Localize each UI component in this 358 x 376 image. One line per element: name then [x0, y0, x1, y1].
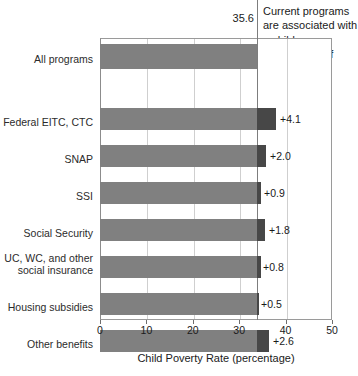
bar-value-other-benefits: +2.6	[273, 336, 294, 347]
bar-increment-housing-subsidies	[257, 293, 259, 315]
bar-base-housing-subsidies	[100, 293, 257, 315]
bar-row-other-benefits: +2.6	[0, 330, 358, 352]
bar-chart: 35.6 Current programs are associated wit…	[0, 0, 358, 376]
bar-base-ssi	[100, 182, 257, 204]
tick-label-40: 40	[280, 324, 292, 336]
bar-increment-uc-wc-social-insurance	[257, 256, 261, 278]
baseline-value-label: 35.6	[233, 12, 254, 24]
bar-base-uc-wc-social-insurance	[100, 256, 257, 278]
bar-value-social-security: +1.8	[269, 225, 290, 236]
bar-value-ssi: +0.9	[264, 188, 285, 199]
bar-row-federal-eitc-ctc: +4.1	[0, 108, 358, 130]
bar-base-social-security	[100, 219, 257, 241]
bar-value-federal-eitc-ctc: +4.1	[280, 114, 301, 125]
bar-increment-federal-eitc-ctc	[257, 108, 276, 130]
bar-base-federal-eitc-ctc	[100, 108, 257, 130]
tick-label-30: 30	[233, 324, 245, 336]
bar-row-ssi: +0.9	[0, 182, 358, 204]
tick-label-0: 0	[97, 324, 103, 336]
bar-value-housing-subsidies: +0.5	[261, 299, 282, 310]
tick-label-50: 50	[326, 324, 338, 336]
bar-value-snap: +2.0	[270, 151, 291, 162]
bar-row-social-security: +1.8	[0, 219, 358, 241]
bar-base-all-programs	[100, 44, 257, 69]
bar-value-uc-wc-social-insurance: +0.8	[263, 262, 284, 273]
bar-increment-ssi	[257, 182, 261, 204]
tick-label-10: 10	[141, 324, 153, 336]
bar-row-uc-wc-social-insurance: +0.8	[0, 256, 358, 278]
x-axis-title: Child Poverty Rate (percentage)	[100, 352, 332, 364]
bar-base-snap	[100, 145, 257, 167]
bar-row-snap: +2.0	[0, 145, 358, 167]
bar-row-all-programs	[0, 44, 358, 69]
bar-increment-social-security	[257, 219, 265, 241]
bar-increment-other-benefits	[257, 330, 269, 352]
bar-row-housing-subsidies: +0.5	[0, 293, 358, 315]
tick-label-20: 20	[187, 324, 199, 336]
bar-increment-snap	[257, 145, 266, 167]
